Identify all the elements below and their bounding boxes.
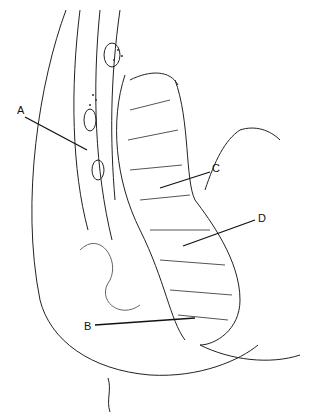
label-c: C [212, 162, 220, 174]
label-a: A [17, 104, 24, 116]
label-b: B [84, 320, 91, 332]
label-d: D [258, 212, 266, 224]
illustration-drawing [0, 0, 309, 412]
anatomy-illustration: A B C D [0, 0, 309, 412]
